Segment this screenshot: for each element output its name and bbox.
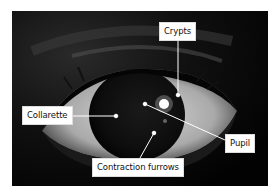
label-collarette: Collarette <box>22 106 73 125</box>
label-contraction-furrows: Contraction furrows <box>92 158 184 177</box>
label-pupil: Pupil <box>225 134 255 153</box>
label-crypts: Crypts <box>159 22 196 41</box>
